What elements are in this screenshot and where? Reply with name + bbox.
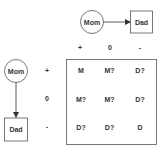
col-header-minus: - (139, 44, 142, 51)
cell-1-2: D? (135, 96, 144, 103)
row-headers: + 0 - (45, 67, 49, 130)
cell-2-1: D? (105, 124, 114, 131)
top-dad-label: Dad (135, 19, 148, 26)
cell-1-0: M? (76, 96, 86, 103)
left-dad-label: Dad (9, 126, 22, 133)
col-header-zero: 0 (108, 44, 112, 51)
cell-2-0: D? (76, 124, 85, 131)
cell-0-0: M (78, 67, 84, 74)
left-mom-label: Mom (8, 68, 24, 75)
col-header-plus: + (78, 44, 82, 51)
column-headers: + 0 - (78, 44, 142, 51)
left-graph: Mom Dad (5, 60, 28, 142)
row-header-plus: + (45, 67, 49, 74)
row-header-minus: - (46, 123, 49, 130)
diagram-canvas: Mom Dad Mom Dad + 0 - + 0 - M M? D? M? M… (0, 0, 167, 154)
cell-1-1: M? (104, 96, 114, 103)
cell-0-1: M? (104, 67, 114, 74)
cell-2-2: D (137, 124, 142, 131)
top-graph: Mom Dad (81, 11, 153, 34)
row-header-zero: 0 (45, 95, 49, 102)
cell-0-2: D? (135, 67, 144, 74)
top-mom-label: Mom (84, 19, 100, 26)
